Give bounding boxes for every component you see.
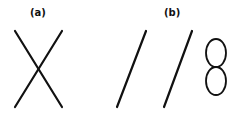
slash-line-2 <box>164 31 192 107</box>
panel-b-shapes <box>117 31 226 107</box>
figure-eight-top-loop <box>206 39 226 67</box>
slash-line-1 <box>117 31 146 107</box>
diagram-canvas <box>0 0 241 117</box>
panel-a-x-shape <box>15 31 62 107</box>
figure-eight-bottom-loop <box>206 67 226 95</box>
